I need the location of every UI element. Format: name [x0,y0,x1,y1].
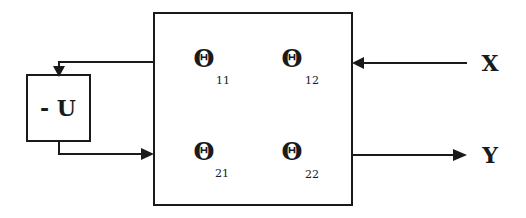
svg-text:11: 11 [216,74,230,87]
block-diagram: - U X Y Θ 11 Θ 12 Θ 21 Θ 22 [0,0,526,218]
input-x-label: X [481,50,499,76]
feedback-label: - U [40,95,76,121]
output-y-arrow [352,149,467,161]
main-block [154,13,352,205]
svg-text:Θ: Θ [282,137,303,166]
theta-12: Θ 12 [282,44,319,87]
theta-21: Θ 21 [194,137,229,180]
svg-text:21: 21 [215,167,229,180]
output-y-label: Y [481,142,498,168]
svg-text:Θ: Θ [194,137,215,166]
input-x-arrow [352,57,467,69]
feedback-return-arrow [59,141,154,160]
svg-text:Θ: Θ [194,44,215,73]
theta-22: Θ 22 [282,137,319,181]
theta-11: Θ 11 [194,44,230,87]
svg-text:12: 12 [305,74,319,87]
svg-text:Θ: Θ [282,44,303,73]
svg-text:22: 22 [305,168,319,181]
